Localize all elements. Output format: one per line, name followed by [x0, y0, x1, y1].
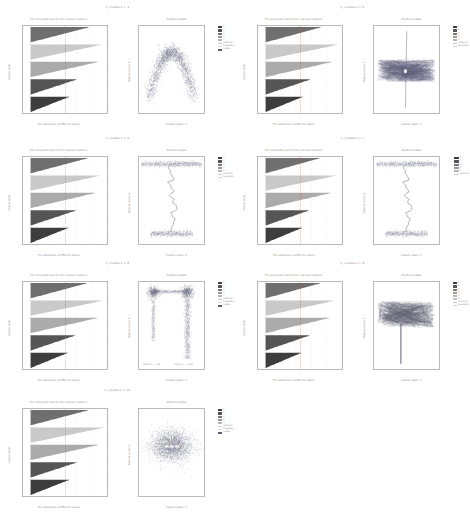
silhouette-title: The silhouette plot for the various clus…	[0, 401, 118, 404]
legend-swatch	[218, 167, 222, 169]
legend-swatch	[454, 164, 458, 166]
legend: 0 1 2 3 4 centroid b	[453, 26, 469, 48]
legend-swatch	[453, 282, 457, 284]
legend-item[interactable]: outlier	[218, 304, 234, 307]
legend-swatch	[453, 295, 457, 297]
legend: 0 1 2 3 4 centroid b	[218, 409, 234, 434]
legend-label: outlier	[223, 304, 230, 306]
silhouette-ylabel: Cluster label	[243, 64, 246, 80]
legend-swatch	[218, 409, 222, 411]
silhouette-bands	[23, 157, 107, 244]
legend-label: centroid	[460, 173, 469, 175]
legend-swatch	[218, 292, 222, 294]
cluster-count-label: n_clusters = 9	[235, 262, 470, 265]
silhouette-axes[interactable]: -0.10.00.20.40.60.81.00123	[22, 408, 108, 497]
scatter-xlabel: Feature space 1	[353, 380, 470, 383]
legend-swatch	[218, 177, 222, 178]
silhouette-xlabel: The silhouette coefficient values	[235, 380, 353, 383]
scatter-axes[interactable]: -1.0-0.50.00.51.0-1.0-0.50.00.51.0	[138, 408, 206, 497]
analysis-cell: n_clusters = 5 The silhouette plot for t…	[235, 0, 470, 131]
legend-swatch	[218, 174, 222, 175]
legend-swatch	[218, 29, 222, 31]
legend-label: outlier	[223, 48, 230, 50]
legend-swatch	[218, 164, 222, 166]
scatter-ylabel: Feature space 2	[127, 193, 130, 214]
legend-swatch	[453, 289, 457, 291]
scatter-pane: Clustered data Feature space 2 -1.0-0.50…	[118, 147, 236, 259]
silhouette-axes[interactable]: -0.10.00.20.40.60.81.00123	[257, 281, 343, 370]
legend-item[interactable]: outlier	[218, 431, 234, 434]
legend-label: boundary	[458, 304, 469, 306]
legend-swatch	[453, 26, 457, 28]
panel-pair: The silhouette plot for the various clus…	[0, 272, 235, 384]
legend-swatch	[218, 426, 222, 427]
scatter-pane: Clustered data Feature space 2 -1.0-0.50…	[353, 147, 470, 259]
silhouette-bands	[23, 26, 107, 113]
cluster-count-label: n_clusters = 5	[235, 6, 470, 9]
scatter-points	[374, 157, 440, 244]
silhouette-axes[interactable]: -0.10.00.20.40.60.81.00123	[257, 156, 343, 245]
silhouette-axes[interactable]: -0.10.00.20.40.60.81.00123	[22, 281, 108, 370]
scatter-ylabel: Feature space 2	[362, 193, 365, 214]
scatter-title: Clustered data	[353, 18, 470, 21]
plot-annotation: cluster 0 — left	[142, 364, 159, 366]
scatter-points	[374, 282, 440, 369]
scatter-axes[interactable]: -1.0-0.50.00.51.0-1.0-0.50.00.51.0	[373, 25, 441, 114]
silhouette-axes[interactable]: -0.10.00.20.40.60.81.00123	[257, 25, 343, 114]
analysis-cell: n_clusters = 4 The silhouette plot for t…	[0, 0, 235, 131]
legend-swatch	[218, 160, 222, 162]
scatter-ylabel: Feature space 2	[362, 318, 365, 339]
scatter-pane: Clustered data Feature space 2 -1.0-0.50…	[353, 16, 470, 128]
scatter-pane: Clustered data Feature space 2 -1.0-0.50…	[118, 16, 236, 128]
silhouette-title: The silhouette plot for the various clus…	[0, 274, 118, 277]
legend-item[interactable]: outlier	[218, 48, 234, 51]
scatter-axes[interactable]: -1.0-0.50.00.51.0-1.0-0.50.00.51.0	[373, 156, 441, 245]
panel-pair: The silhouette plot for the various clus…	[235, 272, 470, 384]
scatter-title: Clustered data	[118, 401, 236, 404]
silhouette-ylabel: Cluster label	[8, 320, 11, 336]
silhouette-ylabel: Cluster label	[8, 195, 11, 211]
legend-swatch	[218, 412, 222, 414]
silhouette-title: The silhouette plot for the various clus…	[235, 18, 353, 21]
legend-swatch	[218, 295, 222, 297]
scatter-points	[374, 26, 440, 113]
legend-swatch	[218, 33, 222, 35]
scatter-xlabel: Feature space 1	[118, 507, 236, 510]
silhouette-bands	[23, 409, 107, 496]
silhouette-title: The silhouette plot for the various clus…	[235, 149, 353, 152]
silhouette-axes[interactable]: -0.10.00.20.40.60.81.00123	[22, 156, 108, 245]
scatter-ylabel: Feature space 2	[127, 445, 130, 466]
legend-swatch	[218, 429, 222, 430]
scatter-points	[139, 26, 205, 113]
legend-swatch	[453, 33, 457, 35]
legend-swatch	[218, 39, 222, 41]
scatter-axes[interactable]: -1.0-0.50.00.51.0-1.0-0.50.00.51.0	[138, 156, 206, 245]
legend-swatch	[218, 422, 222, 424]
analysis-cell: n_clusters = 8 The silhouette plot for t…	[0, 256, 235, 383]
silhouette-axes[interactable]: -0.10.00.20.40.60.81.00123	[22, 25, 108, 114]
scatter-axes[interactable]: -1.0-0.50.00.51.0-1.0-0.50.00.51.0 clust…	[138, 281, 206, 370]
legend-item[interactable]: boundary	[218, 176, 234, 179]
legend-swatch	[454, 174, 458, 175]
legend-swatch	[453, 39, 457, 41]
scatter-axes[interactable]: -1.0-0.50.00.51.0-1.0-0.50.00.51.0	[138, 25, 206, 114]
silhouette-pane: The silhouette plot for the various clus…	[235, 147, 353, 259]
panel-pair: The silhouette plot for the various clus…	[235, 16, 470, 128]
scatter-axes[interactable]: -1.0-0.50.00.51.0-1.0-0.50.00.51.0	[373, 281, 441, 370]
legend-item[interactable]: boundary	[453, 304, 469, 307]
panel-pair: The silhouette plot for the various clus…	[235, 147, 470, 259]
silhouette-bands	[258, 26, 342, 113]
legend-label: boundary	[223, 176, 234, 178]
scatter-title: Clustered data	[118, 149, 236, 152]
legend-item[interactable]: boundary	[453, 45, 469, 48]
legend-swatch	[218, 46, 222, 47]
legend-swatch	[454, 160, 458, 162]
silhouette-xlabel: The silhouette coefficient values	[0, 507, 118, 510]
legend: 0 1 2 3 4 centroid	[454, 157, 469, 176]
silhouette-bands	[258, 157, 342, 244]
silhouette-xlabel: The silhouette coefficient values	[235, 124, 353, 127]
legend-item[interactable]: centroid	[454, 173, 469, 176]
silhouette-bands	[258, 282, 342, 369]
scatter-points	[139, 157, 205, 244]
silhouette-pane: The silhouette plot for the various clus…	[0, 147, 118, 259]
